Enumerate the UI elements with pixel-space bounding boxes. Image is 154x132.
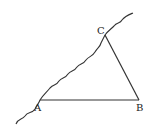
segment-bc — [105, 35, 139, 100]
label-c: C — [97, 25, 105, 36]
label-b: B — [136, 102, 143, 113]
triangle-diagram: A B C — [0, 0, 154, 132]
label-a: A — [33, 102, 42, 113]
